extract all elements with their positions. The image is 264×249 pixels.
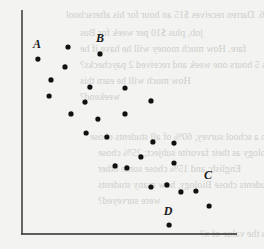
data-point-c [207, 203, 212, 208]
data-point [150, 139, 155, 144]
data-point [87, 85, 92, 90]
data-point [148, 184, 153, 189]
data-point [113, 163, 118, 168]
data-point [104, 134, 109, 139]
data-point [95, 117, 100, 122]
data-point [148, 98, 153, 103]
data-point [47, 93, 52, 98]
data-point [171, 141, 176, 146]
data-point [164, 182, 169, 187]
data-point [124, 165, 129, 170]
data-point [122, 85, 127, 90]
axes [21, 10, 237, 234]
data-points [35, 44, 211, 227]
point-label-d: D [163, 204, 173, 218]
point-label-c: C [204, 168, 213, 182]
data-point [65, 44, 70, 49]
point-labels: ABCD [32, 31, 213, 218]
data-point-a [35, 57, 40, 62]
scatter-plot: ABCD [0, 0, 264, 249]
data-point [138, 154, 143, 159]
data-point-d [167, 222, 172, 227]
point-label-b: B [95, 31, 104, 45]
data-point [48, 77, 53, 82]
data-point-b [97, 51, 102, 56]
data-point [122, 111, 127, 116]
data-point [84, 130, 89, 135]
data-point [82, 100, 87, 105]
data-point [171, 160, 176, 165]
data-point [178, 189, 183, 194]
data-point [68, 111, 73, 116]
data-point [193, 188, 198, 193]
point-label-a: A [32, 37, 41, 51]
data-point [62, 64, 67, 69]
